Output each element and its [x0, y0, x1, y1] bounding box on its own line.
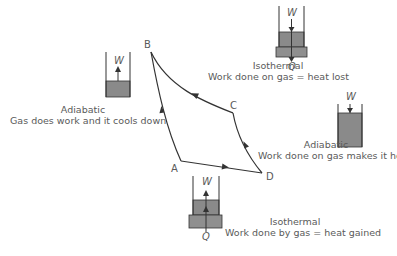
caption-adiabatic-compression: Adiabatic Work done on gas makes it hot [258, 139, 394, 161]
work-label: W [202, 176, 212, 187]
work-label: W [346, 91, 356, 102]
arrow-right-icon [222, 164, 230, 171]
caption-adiabatic-expansion: Adiabatic Gas does work and it cools dow… [10, 104, 156, 126]
caption-description: Work done on gas = heat lost [208, 71, 348, 82]
work-label: W [114, 55, 124, 66]
caption-title: Adiabatic [258, 139, 394, 150]
point-label-a: A [171, 163, 178, 174]
caption-title: Adiabatic [10, 104, 156, 115]
caption-description: Work done by gas = heat gained [225, 227, 365, 238]
point-label-d: D [266, 171, 274, 182]
point-label-b: B [144, 39, 151, 50]
work-in-arrow-icon [289, 27, 295, 32]
caption-title: Isothermal [208, 60, 348, 71]
caption-isothermal-compression: Isothermal Work done on gas = heat lost [208, 60, 348, 82]
heat-label: Q [202, 231, 210, 242]
work-label: W [287, 7, 297, 18]
caption-isothermal-expansion: Isothermal Work done by gas = heat gaine… [225, 216, 365, 238]
caption-description: Gas does work and it cools down [10, 115, 156, 126]
work-in-arrow-icon [347, 108, 353, 113]
caption-description: Work done on gas makes it hot [258, 150, 394, 161]
caption-title: Isothermal [225, 216, 365, 227]
path-a-to-d [181, 161, 262, 173]
point-label-c: C [230, 100, 237, 111]
work-out-arrow-icon [203, 190, 209, 196]
work-out-arrow-icon [115, 66, 121, 72]
